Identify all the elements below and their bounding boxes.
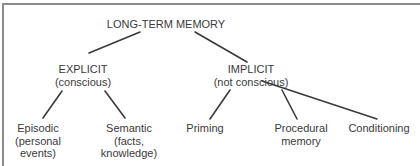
edge-explicit-semantic	[105, 91, 125, 118]
node-label: Semantic	[101, 122, 157, 135]
node-sublabel: (facts,	[101, 135, 157, 148]
node-sublabel: memory	[274, 135, 327, 148]
node-label: LONG-TERM MEMORY	[107, 18, 225, 30]
node-procedural-memory: Procedural memory	[274, 122, 327, 147]
node-sublabel: (personal	[15, 135, 61, 148]
node-label: Conditioning	[348, 122, 409, 135]
node-label: IMPLICIT	[214, 63, 289, 76]
node-sublabel: knowledge)	[101, 147, 157, 160]
node-explicit: EXPLICIT (conscious)	[55, 63, 111, 88]
node-long-term-memory: LONG-TERM MEMORY	[107, 18, 225, 31]
node-priming: Priming	[186, 122, 223, 135]
edge-implicit-priming	[210, 90, 230, 119]
edge-ltm-implicit	[195, 32, 247, 62]
node-sublabel: (conscious)	[55, 76, 111, 89]
node-label: EXPLICIT	[55, 63, 111, 76]
node-semantic: Semantic (facts, knowledge)	[101, 122, 157, 160]
node-sublabel: events)	[15, 147, 61, 160]
edge-implicit-procedural	[282, 90, 297, 119]
node-episodic: Episodic (personal events)	[15, 122, 61, 160]
node-label: Episodic	[15, 122, 61, 135]
node-implicit: IMPLICIT (not conscious)	[214, 63, 289, 88]
edge-explicit-episodic	[43, 91, 62, 118]
node-conditioning: Conditioning	[348, 122, 409, 135]
node-label: Procedural	[274, 122, 327, 135]
edge-ltm-explicit	[89, 32, 140, 53]
node-sublabel: (not conscious)	[214, 76, 289, 89]
node-label: Priming	[186, 122, 223, 135]
